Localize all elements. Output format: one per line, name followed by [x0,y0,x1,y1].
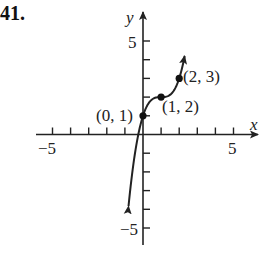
y-tick-label-5: 5 [128,33,137,52]
point-label-0-1: (0, 1) [96,106,133,125]
cubic-graph: x y −5 5 5 −5 (0, 1) (1, 2) (2, 3) [0,0,271,253]
y-axis-label: y [124,8,134,27]
point-label-1-2: (1, 2) [162,97,199,116]
x-axis-label: x [249,115,258,134]
point-marker [139,112,146,119]
x-tick-label-5: 5 [228,139,237,158]
axes [36,12,258,245]
point-label-2-3: (2, 3) [183,67,220,86]
point-marker [176,75,183,82]
y-tick-label-neg5: −5 [120,220,138,239]
x-tick-label-neg5: −5 [38,139,56,158]
